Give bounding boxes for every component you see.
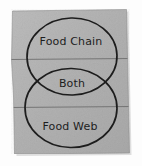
region-label-both: Both [59,77,85,90]
region-label-food-web: Food Web [42,120,97,133]
region-label-food-chain: Food Chain [40,35,103,48]
venn-diagram-svg: Food Chain Both Food Web [0,0,142,166]
venn-diagram-image: Food Chain Both Food Web [0,0,142,166]
